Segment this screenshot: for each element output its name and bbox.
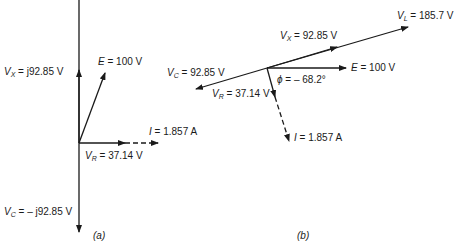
caption-a: (a)	[93, 230, 105, 241]
e-phasor-arrow	[79, 73, 105, 143]
value: = 100 V	[358, 62, 396, 73]
label-a-i: I = 1.857 A	[149, 126, 197, 138]
label-b-vx: VX = 92.85 V	[280, 30, 337, 45]
label-a-e: E = 100 V	[98, 56, 142, 68]
diagram-a	[79, 0, 158, 232]
value: = 1.857 A	[152, 126, 197, 137]
value: = 1.857 A	[297, 132, 342, 143]
value: = 185.7 V	[408, 10, 454, 21]
label-b-i: I = 1.857 A	[294, 132, 342, 144]
symbol: E	[351, 62, 358, 73]
symbol: V	[212, 88, 219, 99]
label-b-phi: ϕ = – 68.2°	[277, 74, 326, 86]
i-phasor-dashed-arrow	[275, 97, 289, 141]
value: = 37.14 V	[97, 150, 143, 161]
label-a-vx: VX = j92.85 V	[4, 66, 63, 81]
label-b-e: E = 100 V	[351, 62, 395, 74]
label-b-vr: VR = 37.14 V	[212, 88, 270, 103]
symbol: V	[280, 30, 287, 41]
value: = – 68.2°	[283, 74, 326, 85]
symbol: V	[397, 10, 404, 21]
label-b-vl: VL = 185.7 V	[397, 10, 453, 25]
label-b-vc: VC = 92.85 V	[167, 67, 225, 82]
label-a-vc: VC = – j92.85 V	[4, 206, 72, 221]
symbol: E	[98, 56, 105, 67]
symbol: V	[4, 206, 11, 217]
caption-b: (b)	[297, 230, 309, 241]
value: = 100 V	[105, 56, 143, 67]
value: = j92.85 V	[15, 66, 63, 77]
symbol: V	[4, 66, 11, 77]
symbol: V	[167, 67, 174, 78]
value: = – j92.85 V	[16, 206, 72, 217]
value: = 92.85 V	[291, 30, 337, 41]
vx-phasor-arrow	[267, 47, 337, 68]
symbol: V	[85, 150, 92, 161]
value: = 92.85 V	[179, 67, 225, 78]
value: = 37.14 V	[224, 88, 270, 99]
label-a-vr: VR = 37.14 V	[85, 150, 143, 165]
